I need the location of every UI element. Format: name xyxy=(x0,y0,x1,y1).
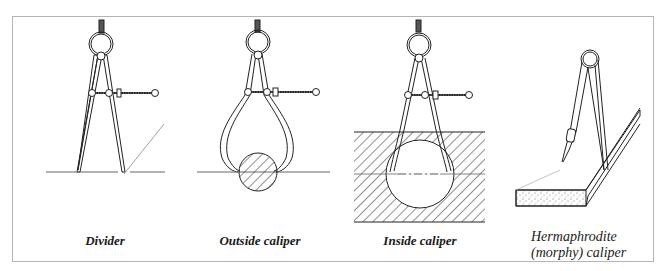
caption-outside-caliper: Outside caliper xyxy=(210,233,310,249)
caption-hermaphrodite-line1: Hermaphrodite xyxy=(531,229,651,245)
inside-caliper-drawing xyxy=(354,20,485,222)
caption-hermaphrodite-caliper: Hermaphrodite (morphy) caliper xyxy=(531,229,651,261)
caption-hermaphrodite-line2: (morphy) caliper xyxy=(531,245,651,261)
outside-caliper-drawing xyxy=(197,20,330,191)
caption-divider: Divider xyxy=(70,233,140,249)
caption-inside-caliper: Inside caliper xyxy=(375,233,465,249)
divider-drawing xyxy=(46,20,165,174)
hermaphrodite-caliper-drawing xyxy=(516,50,640,206)
